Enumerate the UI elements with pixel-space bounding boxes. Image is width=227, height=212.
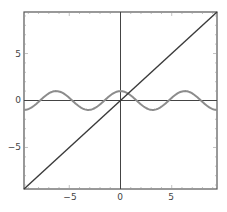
y-tick-label-5: 5 [15,50,21,59]
x-tick-label-neg5: −5 [63,193,76,202]
plot-area [0,0,227,212]
x-tick-label-5: 5 [168,193,174,202]
y-tick-label-neg5: −5 [8,143,21,152]
y-tick-label-0: 0 [15,96,21,105]
x-tick-label-0: 0 [117,193,123,202]
